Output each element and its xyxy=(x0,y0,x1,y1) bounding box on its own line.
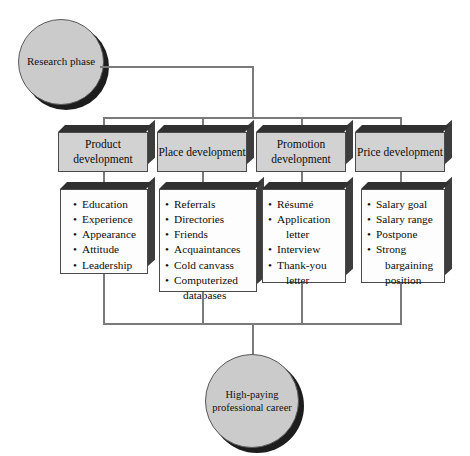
list-box-product-development[interactable]: EducationExperienceAppearanceAttitudeLea… xyxy=(60,189,148,274)
bullet-item: Appearance xyxy=(82,227,136,242)
list-box-place-development[interactable]: ReferralsDirectoriesFriendsAcquaintances… xyxy=(159,189,257,292)
list-box-price-development[interactable]: Salary goalSalary rangePostponeStrong ba… xyxy=(361,189,445,283)
header-box-place-development[interactable]: Place development xyxy=(157,132,247,172)
connector-list-to-bus-1 xyxy=(103,274,105,325)
bullet-item: Strong bargaining position xyxy=(376,242,440,287)
header-label: Price development xyxy=(357,145,443,160)
bullet-item: Experience xyxy=(82,212,136,227)
connector-trunk-vertical xyxy=(252,66,254,119)
bullet-item: Cold canvass xyxy=(174,258,252,273)
bullet-item: Interview xyxy=(277,242,341,257)
header-box-price-development[interactable]: Price development xyxy=(355,132,445,172)
header-box-promotion-development[interactable]: Promotion development xyxy=(256,132,346,172)
start-node-label: Research phase xyxy=(21,55,101,69)
bullet-list-promotion: RésuméApplication letterInterviewThank-y… xyxy=(263,197,345,288)
connector-start-to-trunk xyxy=(100,66,254,68)
bullet-item: Education xyxy=(82,197,136,212)
header-label: Product development xyxy=(59,137,147,167)
bullet-item: Salary range xyxy=(376,212,440,227)
bullet-item: Postpone xyxy=(376,227,440,242)
bullet-item: Friends xyxy=(174,227,252,242)
end-node-high-paying-career[interactable]: High-paying professional career xyxy=(205,354,299,448)
flowchart-canvas: Research phase Product development Place… xyxy=(0,0,470,456)
bullet-item: Computerized databases xyxy=(174,273,252,303)
connector-top-bus xyxy=(103,117,402,119)
connector-list-to-bus-4 xyxy=(400,283,402,325)
bullet-item: Thank-you letter xyxy=(277,258,341,288)
bullet-item: Leadership xyxy=(82,258,136,273)
header-box-product-development[interactable]: Product development xyxy=(58,132,148,172)
end-node-label: High-paying professional career xyxy=(206,388,298,414)
bullet-list-product: EducationExperienceAppearanceAttitudeLea… xyxy=(68,197,140,273)
header-label: Promotion development xyxy=(257,137,345,167)
header-label: Place development xyxy=(158,145,245,160)
bullet-item: Résumé xyxy=(277,197,341,212)
bullet-item: Referrals xyxy=(174,197,252,212)
bullet-list-place: ReferralsDirectoriesFriendsAcquaintances… xyxy=(160,197,256,303)
connector-list-to-bus-2 xyxy=(202,292,204,325)
bullet-item: Application letter xyxy=(277,212,341,242)
connector-list-to-bus-3 xyxy=(301,283,303,325)
bullet-list-price: Salary goalSalary rangePostponeStrong ba… xyxy=(362,197,444,288)
bullet-item: Acquaintances xyxy=(174,242,252,257)
start-node-research-phase[interactable]: Research phase xyxy=(18,19,104,105)
bullet-item: Attitude xyxy=(82,242,136,257)
bullet-item: Directories xyxy=(174,212,252,227)
bullet-item: Salary goal xyxy=(376,197,440,212)
list-box-promotion-development[interactable]: RésuméApplication letterInterviewThank-y… xyxy=(262,189,346,283)
